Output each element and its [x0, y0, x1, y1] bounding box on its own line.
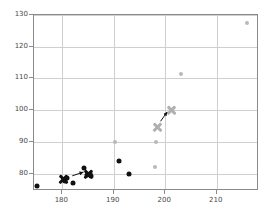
gridline-x: [165, 15, 166, 189]
tick-mark-y: [29, 141, 33, 142]
tick-label-y: 80: [8, 169, 28, 177]
data-point: [179, 72, 183, 76]
tick-mark-y: [29, 77, 33, 78]
gridline-y: [34, 78, 257, 79]
data-point: [116, 158, 121, 163]
gridline-x: [114, 15, 115, 189]
tick-mark-y: [29, 109, 33, 110]
tick-label-y: 90: [8, 137, 28, 145]
gridline-y: [34, 15, 257, 16]
tick-mark-y: [29, 46, 33, 47]
tick-label-x: 190: [106, 196, 119, 204]
tick-label-x: 200: [158, 196, 171, 204]
tick-label-y: 100: [8, 105, 28, 113]
tick-label-y: 120: [8, 42, 28, 50]
data-point: [154, 140, 158, 144]
data-point: [153, 165, 157, 169]
data-point-x-marker: [58, 174, 69, 185]
tick-mark-x: [216, 190, 217, 194]
tick-mark-y: [29, 14, 33, 15]
data-point-x-marker: [152, 122, 163, 133]
tick-label-y: 110: [8, 73, 28, 81]
data-point: [113, 140, 117, 144]
annotation-arrows: [34, 15, 257, 189]
gridline-y: [34, 47, 257, 48]
data-point-x-marker: [166, 105, 177, 116]
gridline-y: [34, 142, 257, 143]
tick-label-x: 180: [55, 196, 68, 204]
gridline-x: [217, 15, 218, 189]
tick-mark-x: [113, 190, 114, 194]
tick-label-x: 210: [209, 196, 222, 204]
data-point: [127, 172, 132, 177]
data-point: [71, 181, 76, 186]
tick-label-y: 130: [8, 10, 28, 18]
tick-mark-x: [164, 190, 165, 194]
data-point: [245, 21, 249, 25]
tick-mark-y: [29, 173, 33, 174]
scatter-chart: 180190200210 8090100110120130: [0, 0, 276, 219]
plot-area: [33, 14, 258, 190]
gridline-x: [62, 15, 63, 189]
data-point-x-marker: [83, 169, 94, 180]
gridline-y: [34, 110, 257, 111]
data-point: [34, 184, 39, 189]
tick-mark-x: [61, 190, 62, 194]
